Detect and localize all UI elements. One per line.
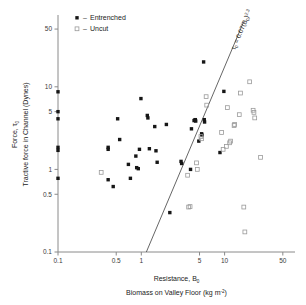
data-point-entrenched: [189, 168, 192, 171]
x-tick-label: 1: [139, 257, 143, 264]
data-point-entrenched: [134, 154, 137, 157]
data-point-entrenched: [56, 146, 59, 149]
y-tick-label: 50: [45, 25, 53, 32]
y-tick-label: 1: [48, 166, 52, 173]
legend-separator: –: [83, 25, 87, 32]
data-point-entrenched: [148, 147, 151, 150]
data-point-entrenched: [138, 148, 141, 151]
data-point-entrenched: [203, 120, 206, 123]
data-point-entrenched: [137, 167, 140, 170]
data-point-entrenched: [116, 117, 119, 120]
y-axis-title-subscript: 0: [15, 121, 20, 124]
data-point-entrenched: [56, 177, 59, 180]
scatter-plot-figure: 0.10.51510500.10.5151050 τ0 = 0.07(B0)2.…: [0, 0, 306, 305]
data-point-entrenched: [56, 90, 59, 93]
data-point-entrenched: [127, 163, 130, 166]
x-axis-units-text: Biomass on Valley Floor (kg m: [126, 289, 221, 297]
x-axis-units-close: ): [225, 289, 227, 297]
legend-label-uncut: Uncut: [90, 25, 108, 32]
y-tick-label: 5: [48, 108, 52, 115]
y-tick-label: 0.5: [43, 191, 52, 198]
data-point-entrenched: [180, 162, 183, 165]
data-point-entrenched: [194, 119, 197, 122]
x-axis-title-text: Resistance, B: [154, 275, 198, 282]
y-tick-label: 10: [45, 83, 53, 90]
data-point-entrenched: [154, 149, 157, 152]
data-point-entrenched: [202, 60, 205, 63]
legend-label-entrenched: Entrenched: [90, 14, 126, 21]
x-tick-label: 50: [279, 257, 287, 264]
x-tick-label: 0.1: [53, 257, 62, 264]
y-axis-title-group2: Tractive force in Channel (Dynes): [22, 82, 30, 186]
data-point-entrenched: [153, 125, 156, 128]
data-point-entrenched: [168, 211, 171, 214]
data-point-entrenched: [106, 148, 109, 151]
chart-canvas: 0.10.51510500.10.5151050 τ0 = 0.07(B0)2.…: [0, 0, 306, 305]
y-axis-title-text: Force, τ: [11, 123, 18, 148]
data-point-entrenched: [106, 178, 109, 181]
data-point-entrenched: [222, 90, 225, 93]
data-point-entrenched: [129, 177, 132, 180]
data-point-entrenched: [190, 127, 193, 130]
data-point-entrenched: [165, 123, 168, 126]
x-tick-label: 0.5: [112, 257, 121, 264]
data-point-entrenched: [118, 138, 121, 141]
chart-background: [0, 0, 306, 305]
data-point-entrenched: [112, 185, 115, 188]
x-axis-title-line2: Biomass on Valley Floor (kg m-2): [126, 289, 227, 297]
y-axis-title-line2: Tractive force in Channel (Dynes): [22, 82, 30, 186]
legend-marker-entrenched: [75, 16, 78, 19]
data-point-entrenched: [56, 117, 59, 120]
data-point-entrenched: [139, 97, 142, 100]
data-point-entrenched: [56, 149, 59, 152]
data-point-entrenched: [155, 161, 158, 164]
data-point-entrenched: [146, 116, 149, 119]
x-axis-title-subscript: 0: [197, 279, 200, 284]
legend-separator: –: [83, 14, 87, 21]
x-tick-label: 10: [221, 257, 229, 264]
x-tick-label: 5: [198, 257, 202, 264]
y-tick-label: 0.1: [43, 248, 52, 255]
data-point-entrenched: [56, 110, 59, 113]
